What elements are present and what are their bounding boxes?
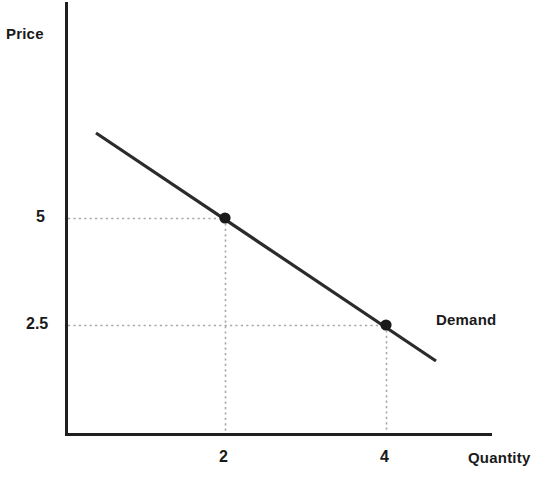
- chart-background: [0, 0, 533, 477]
- x-tick-label-2: 2: [219, 449, 228, 465]
- chart-plot-area: [0, 0, 533, 477]
- data-point-q4-p2-5: [380, 319, 391, 330]
- x-tick-label-4: 4: [380, 449, 389, 465]
- y-tick-label-2-5: 2.5: [26, 316, 48, 332]
- y-tick-label-5: 5: [36, 209, 45, 225]
- x-axis-title: Quantity: [468, 450, 530, 465]
- data-point-q2-p5: [219, 212, 230, 223]
- demand-curve-chart: Price Quantity Demand 5 2.5 2 4: [0, 0, 533, 477]
- y-axis-title: Price: [6, 26, 44, 41]
- demand-series-label: Demand: [436, 312, 496, 327]
